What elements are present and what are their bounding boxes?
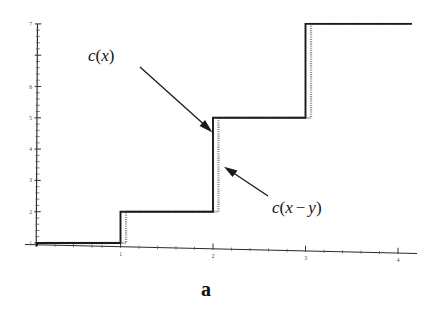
- y-tick-label-5: 5: [29, 115, 32, 121]
- annotation-c-x-label: c(x): [88, 46, 114, 65]
- y-tick-label-1: 1: [29, 240, 32, 246]
- y-tick-label-6: 6: [29, 84, 32, 90]
- y-tick-label-3: 3: [29, 177, 32, 183]
- y-axis-line: [36, 24, 37, 247]
- x-tick-label-4: 4: [397, 257, 400, 263]
- annotation-c-x: c(x): [88, 46, 213, 133]
- step-function-chart: 1 2 3 4 5 6 7 1 2 3 4: [0, 0, 424, 312]
- panel-letter: a: [201, 278, 211, 300]
- y-axis-minor-ticks: [35, 30, 40, 237]
- annotation-c-x-minus-y-arrow-head: [224, 167, 238, 177]
- y-tick-label-4: 4: [29, 146, 32, 152]
- y-tick-label-7: 7: [29, 21, 32, 27]
- annotation-c-x-minus-y: c(x−y): [224, 167, 322, 217]
- y-axis-tick-labels: 1 2 3 4 5 6 7: [29, 21, 32, 246]
- figure-panel-a: 1 2 3 4 5 6 7 1 2 3 4: [0, 0, 424, 312]
- x-tick-label-2: 2: [212, 253, 215, 259]
- y-tick-label-2: 2: [29, 209, 32, 215]
- x-tick-label-1: 1: [119, 251, 122, 257]
- x-tick-label-3: 3: [304, 255, 307, 261]
- annotation-c-x-arrow-shaft: [140, 67, 208, 128]
- x-axis-line: [25, 245, 417, 254]
- annotation-c-x-minus-y-label: c(x−y): [272, 198, 322, 217]
- axes: 1 2 3 4 5 6 7 1 2 3 4: [25, 21, 417, 263]
